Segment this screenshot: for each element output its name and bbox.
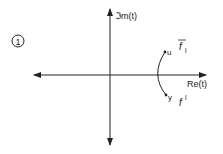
lower-label-sup: l xyxy=(185,94,187,101)
point-u-marker xyxy=(164,51,167,54)
point-y-label: y xyxy=(168,93,172,102)
lower-label-base: f xyxy=(179,97,183,108)
upper-label-base: f xyxy=(179,41,183,52)
point-u-label: u xyxy=(167,48,171,57)
point-y-marker xyxy=(165,94,168,97)
path-arc xyxy=(158,52,166,95)
upper-curve-label: f l xyxy=(178,40,187,54)
figure-number: 1 xyxy=(15,37,20,47)
figure-number-badge: 1 xyxy=(12,35,24,47)
lower-curve-label: f l xyxy=(179,94,187,108)
imag-axis-label: ℑm(t) xyxy=(115,11,137,21)
complex-plane-diagram: 1 ℑm(t) Re(t) u y f l f l xyxy=(0,0,223,154)
upper-label-sub: l xyxy=(185,47,187,54)
real-axis-label: Re(t) xyxy=(187,79,207,89)
